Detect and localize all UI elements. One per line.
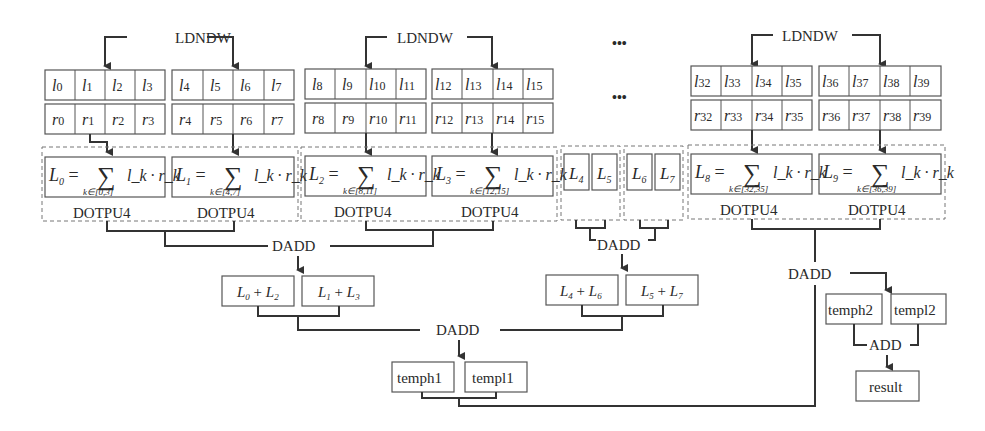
dotpu4-label-2b: DOTPU4 (461, 204, 519, 220)
l-cell-12: l12 (435, 76, 451, 93)
l-cell-11: l11 (399, 76, 415, 93)
result-label: result (869, 379, 903, 395)
partial-sum-L5-L7-label: L5 + L7 (640, 283, 683, 301)
dotpu4-label-1a: DOTPU4 (73, 205, 131, 221)
dadd-label-1: DADD (272, 238, 315, 254)
r-cell-14: r14 (496, 110, 514, 127)
dadd-label-4: DADD (788, 266, 831, 282)
r-cell-9: r9 (342, 110, 354, 127)
r-cell-39: r39 (913, 107, 931, 124)
r-cell-5: r5 (210, 111, 222, 128)
sum-range-L0: k∈[0,3] (83, 187, 114, 197)
temph1-label: temph1 (397, 370, 442, 386)
l-cell-34: l34 (755, 73, 771, 90)
bracket-temps1 (422, 392, 496, 398)
sum-range-L8: k∈[32,35] (729, 184, 769, 194)
l-cell-10: l10 (369, 76, 385, 93)
l-cell-35: l35 (785, 73, 801, 90)
l-cell-36: l36 (822, 73, 838, 90)
group-0-7: LDNDW DOTPU4 (42, 30, 298, 221)
templ1-label: templ1 (472, 370, 514, 386)
l-cell-39: l39 (913, 73, 929, 90)
r-cell-13: r13 (465, 110, 483, 127)
wire-add-left (854, 324, 867, 345)
l-cell-15: l15 (526, 76, 542, 93)
r-cell-1: r1 (82, 111, 94, 128)
l-cell-38: l38 (883, 73, 899, 90)
r-cell-36: r36 (822, 107, 840, 124)
bracket-partial-left (258, 306, 339, 316)
dotpu4-label-1b: DOTPU4 (197, 205, 255, 221)
middle-registers: L4 L5 L6 L7 (561, 146, 683, 220)
dotpu4-label-2a: DOTPU4 (334, 204, 392, 220)
ldndw-arrow-right-3 (852, 35, 880, 64)
l-cell-14: l14 (496, 76, 512, 93)
ellipsis-mid: ••• (612, 90, 627, 105)
wire-mid-dadd-right (648, 228, 655, 240)
dotpu4-label-3a: DOTPU4 (720, 202, 778, 218)
templ2-label: templ2 (894, 302, 936, 318)
sum-body-L9: l_k · r_k (901, 164, 955, 181)
sum-range-L2: k∈[8,11] (343, 186, 378, 196)
bracket-dotpu-2 (366, 221, 493, 230)
wire-mid-dadd-left (590, 228, 596, 240)
r-cell-0: r0 (52, 111, 64, 128)
r-cell-8: r8 (312, 110, 324, 127)
r-cell-2: r2 (112, 111, 124, 128)
bracket-dotpu-3 (752, 219, 880, 229)
arrow-to-dotpu-1a (90, 134, 107, 152)
partial-sum-L4-L6-label: L4 + L6 (559, 283, 602, 301)
r-cell-4: r4 (179, 111, 191, 128)
bracket-dotpu-1 (107, 221, 234, 231)
sum-range-L9: k∈[36,39] (857, 184, 897, 194)
r-cell-15: r15 (526, 110, 544, 127)
sum-body-L8: l_k · r_k (773, 164, 827, 181)
r-cell-12: r12 (435, 110, 453, 127)
dot-product-dataflow-diagram: LDNDW DOTPU4 (0, 0, 985, 431)
sum-body-L0: l_k · r_k (127, 167, 181, 184)
r-cell-33: r33 (724, 107, 742, 124)
sum-range-L3: k∈[12,15] (470, 186, 510, 196)
ldndw-arrow-right-2 (467, 37, 492, 66)
wire-add-right (910, 324, 918, 345)
sum-lhs-L1: L1 = (175, 165, 206, 187)
wire-dadd-left (165, 231, 268, 246)
wire-dadd3-right (500, 316, 622, 330)
ldndw-arrow-left-1 (105, 37, 127, 66)
sum-lhs-L2: L2 = (308, 164, 339, 186)
r-cell-6: r6 (240, 111, 252, 128)
add-label: ADD (869, 337, 902, 353)
dotpu4-label-3b: DOTPU4 (848, 202, 906, 218)
r-cell-37: r37 (852, 107, 870, 124)
ldndw-arrow-left-2 (366, 37, 387, 66)
partial-sum-L0-L2-label: L0 + L2 (236, 284, 279, 302)
r-cell-3: r3 (142, 111, 154, 128)
sum-body-L2: l_k · r_k (387, 166, 441, 183)
sum-lhs-L9: L9 = (822, 162, 853, 184)
l-cell-8: l8 (312, 76, 322, 93)
sum-body-L3: l_k · r_k (514, 166, 568, 183)
l-cell-9: l9 (342, 76, 352, 93)
l-cell-37: l37 (852, 73, 868, 90)
r-cell-10: r10 (369, 110, 387, 127)
r-cell-34: r34 (755, 107, 773, 124)
sum-lhs-L0: L0 = (48, 165, 79, 187)
l-cell-4: l4 (179, 77, 189, 94)
l-cell-3: l3 (142, 77, 152, 94)
partial-sum-L1-L3-label: L1 + L3 (317, 284, 360, 302)
l-cell-0: l0 (52, 77, 62, 94)
r-cell-11: r11 (399, 110, 417, 127)
r-cell-32: r32 (694, 107, 712, 124)
l-cell-5: l5 (210, 77, 220, 94)
l-cell-7: l7 (271, 77, 281, 94)
wire-dadd3-left (298, 316, 420, 330)
bracket-L6-L7 (640, 220, 668, 228)
bracket-L4-L5 (576, 220, 605, 228)
l-cell-6: l6 (240, 77, 250, 94)
ldndw-label-3: LDNDW (782, 28, 839, 44)
r-cell-7: r7 (271, 111, 283, 128)
dadd-label-2: DADD (597, 237, 640, 253)
r-cell-38: r38 (883, 107, 901, 124)
sum-body-L1: l_k · r_k (254, 167, 308, 184)
ldndw-label-2: LDNDW (397, 30, 454, 46)
